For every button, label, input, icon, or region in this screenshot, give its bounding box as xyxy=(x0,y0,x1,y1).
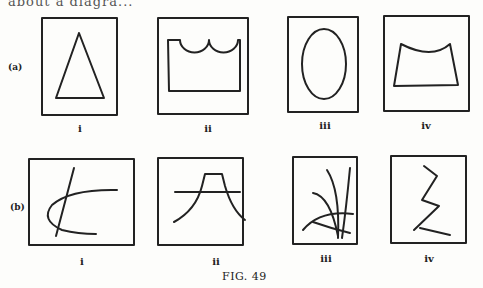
caption-a-iv: iv xyxy=(406,120,446,131)
figure-a-ii xyxy=(158,18,248,114)
figure-caption: FIG. 49 xyxy=(222,270,267,283)
caption-a-iii: iii xyxy=(305,120,345,131)
caption-b-i: i xyxy=(62,256,102,267)
figure-a-iv xyxy=(384,16,469,111)
figure-diagram xyxy=(0,0,483,288)
figure-b-i xyxy=(29,159,134,245)
figure-b-ii xyxy=(158,158,245,245)
caption-b-iv: iv xyxy=(409,253,449,264)
caption-a-ii: ii xyxy=(188,123,228,134)
caption-b-ii: ii xyxy=(196,256,236,267)
figure-a-i xyxy=(42,18,117,115)
caption-b-iii: iii xyxy=(306,253,346,264)
figure-a-iii xyxy=(288,17,358,112)
figure-b-iii xyxy=(293,157,357,244)
caption-a-i: i xyxy=(60,123,100,134)
figure-b-iv xyxy=(391,156,466,243)
